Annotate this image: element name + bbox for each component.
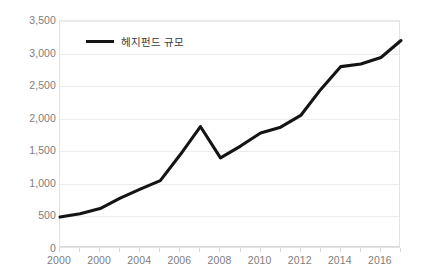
- x-axis-tick-label: 2016: [358, 254, 402, 266]
- line-chart: 05001,0001,5002,0002,5003,0003,500 20002…: [0, 0, 422, 280]
- y-axis-tick-label: 3,000: [4, 47, 56, 59]
- x-axis-tick-label: 2000: [37, 254, 81, 266]
- x-axis-tick-label: 2004: [117, 254, 161, 266]
- x-axis-tick-label: 2000: [77, 254, 121, 266]
- y-axis-tick-label: 2,500: [4, 79, 56, 91]
- legend: 헤지펀드 규모: [86, 34, 184, 49]
- x-axis-tick-label: 2006: [157, 254, 201, 266]
- x-axis-tick-mark: [400, 248, 401, 252]
- x-axis-tick-mark: [119, 248, 120, 252]
- x-axis-line: [60, 246, 399, 247]
- series-layer: [60, 21, 401, 249]
- x-axis-tick-mark: [380, 248, 381, 252]
- x-axis-tick-mark: [340, 248, 341, 252]
- x-axis-tick-mark: [99, 248, 100, 252]
- x-axis-tick-mark: [179, 248, 180, 252]
- series-line-hedge-fund-size: [60, 41, 401, 218]
- legend-label: 헤지펀드 규모: [121, 34, 184, 49]
- x-axis-tick-mark: [320, 248, 321, 252]
- y-axis-tick-label: 1,500: [4, 144, 56, 156]
- x-axis-tick-mark: [159, 248, 160, 252]
- y-axis-tick-label: 3,500: [4, 14, 56, 26]
- y-axis-tick-label: 0: [4, 242, 56, 254]
- x-axis-tick-mark: [260, 248, 261, 252]
- legend-line-swatch: [86, 40, 114, 43]
- y-axis-tick-label: 2,000: [4, 112, 56, 124]
- x-axis-tick-mark: [300, 248, 301, 252]
- x-axis-tick-mark: [199, 248, 200, 252]
- y-axis-tick-label: 500: [4, 209, 56, 221]
- x-axis-tick-mark: [240, 248, 241, 252]
- x-axis-tick-mark: [219, 248, 220, 252]
- x-axis-tick-label: 2008: [197, 254, 241, 266]
- x-axis-tick-mark: [360, 248, 361, 252]
- x-axis-tick-mark: [59, 248, 60, 252]
- x-axis-tick-label: 2014: [318, 254, 362, 266]
- plot-area: [59, 20, 400, 248]
- x-axis-tick-label: 2012: [278, 254, 322, 266]
- x-axis-tick-label: 2010: [238, 254, 282, 266]
- x-axis-tick-mark: [79, 248, 80, 252]
- x-axis-tick-mark: [139, 248, 140, 252]
- y-axis-tick-label: 1,000: [4, 177, 56, 189]
- x-axis-tick-mark: [280, 248, 281, 252]
